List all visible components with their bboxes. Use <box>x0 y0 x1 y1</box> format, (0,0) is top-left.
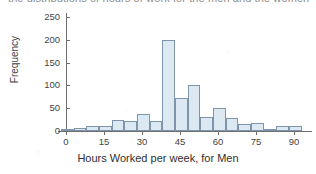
histogram-bar <box>86 126 99 131</box>
x-tick-label: 30 <box>132 136 152 147</box>
histogram-bar <box>162 40 175 131</box>
x-tick-label: 45 <box>170 136 190 147</box>
x-axis-title: Hours Worked per week, for Men <box>0 152 316 164</box>
x-tick-label: 0 <box>56 136 76 147</box>
histogram-bar <box>112 120 125 131</box>
x-tick-mark <box>180 131 181 135</box>
histogram-bar <box>124 121 137 131</box>
x-tick-mark <box>294 131 295 135</box>
histogram-figure: the distributions of hours of work for t… <box>0 0 316 174</box>
histogram-bar <box>276 126 289 131</box>
x-tick-mark <box>66 131 67 135</box>
histogram-bar <box>289 126 302 131</box>
histogram-bar <box>99 126 112 131</box>
histogram-bar <box>200 117 213 131</box>
histogram-bar <box>213 108 226 131</box>
histogram-bars <box>0 0 316 131</box>
histogram-bar <box>188 85 201 131</box>
histogram-bar <box>150 121 163 131</box>
x-tick-mark <box>256 131 257 135</box>
x-tick-mark <box>104 131 105 135</box>
x-tick-label: 90 <box>284 136 304 147</box>
histogram-bar <box>264 129 277 131</box>
x-tick-mark <box>142 131 143 135</box>
x-tick-label: 75 <box>246 136 266 147</box>
x-tick-label: 60 <box>208 136 228 147</box>
histogram-bar <box>137 114 150 131</box>
histogram-bar <box>175 98 188 131</box>
histogram-bar <box>74 128 87 131</box>
histogram-bar <box>238 124 251 131</box>
histogram-bar <box>61 129 74 131</box>
x-tick-mark <box>218 131 219 135</box>
histogram-bar <box>226 118 239 131</box>
x-axis-line <box>58 131 312 132</box>
histogram-bar <box>251 123 264 131</box>
x-tick-label: 15 <box>94 136 114 147</box>
